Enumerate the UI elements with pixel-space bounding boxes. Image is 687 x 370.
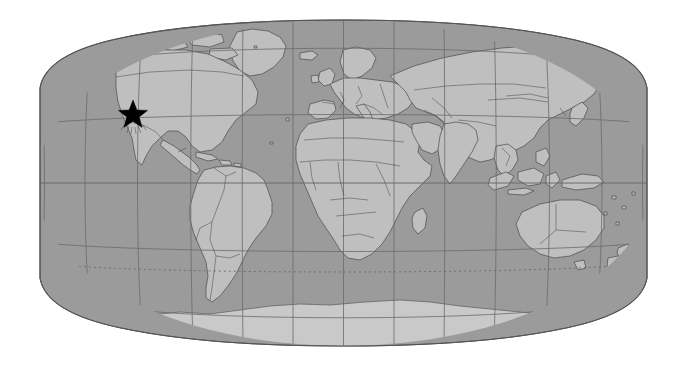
world-map-figure	[0, 0, 687, 370]
land-ireland	[311, 75, 319, 83]
world-map-svg	[0, 0, 687, 370]
globe-group	[40, 20, 647, 348]
